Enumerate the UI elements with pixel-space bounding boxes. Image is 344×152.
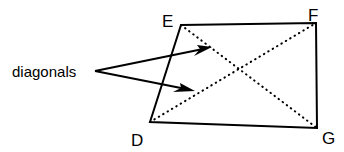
callout-leader-lower (95, 71, 186, 89)
vertex-label-G: G (322, 129, 335, 148)
callout-leader-upper (95, 49, 203, 71)
quadrilateral-outline (150, 23, 317, 128)
vertex-label-F: F (308, 6, 318, 25)
diagonal-DF (150, 23, 316, 122)
callout-label-diagonals: diagonals (12, 63, 76, 80)
vertex-label-D: D (131, 131, 143, 150)
geometry-figure: diagonals E F G D (0, 0, 344, 152)
figure-canvas: diagonals E F G D (0, 0, 344, 152)
diagonal-EG (181, 25, 317, 128)
vertex-label-E: E (162, 12, 173, 31)
